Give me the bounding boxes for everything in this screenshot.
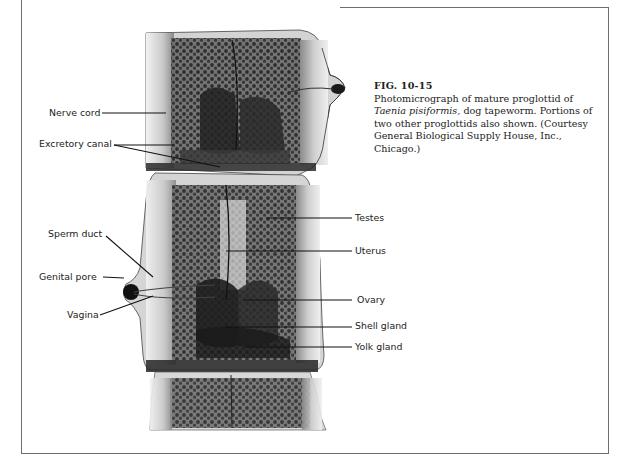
caption-lead: Photomicrograph of mature proglottid of xyxy=(374,93,573,104)
caption-text: Photomicrograph of mature proglottid of … xyxy=(374,93,606,156)
label-yolk-gland: Yolk gland xyxy=(355,341,402,352)
label-nerve-cord: Nerve cord xyxy=(49,107,100,118)
label-uterus: Uterus xyxy=(355,245,386,256)
label-sperm-duct: Sperm duct xyxy=(48,228,102,239)
figure-caption: FIG. 10-15 Photomicrograph of mature pro… xyxy=(374,80,606,156)
label-shell-gland: Shell gland xyxy=(355,320,407,331)
lower-proglottid xyxy=(150,372,326,430)
label-genital-pore: Genital pore xyxy=(39,271,97,282)
label-vagina: Vagina xyxy=(67,309,99,320)
label-excretory-canal: Excretory canal xyxy=(39,138,112,149)
label-ovary: Ovary xyxy=(357,294,385,305)
label-testes: Testes xyxy=(355,212,384,223)
upper-proglottid xyxy=(146,30,345,176)
figure-number: FIG. 10-15 xyxy=(374,80,606,93)
mature-proglottid xyxy=(123,173,324,372)
caption-species: Taenia pisiformis, xyxy=(374,105,460,116)
